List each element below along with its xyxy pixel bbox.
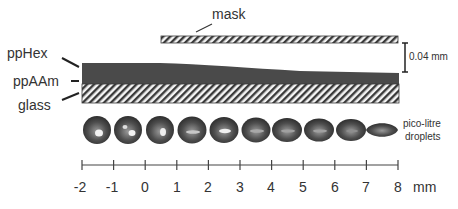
axis-tick-label: 7 — [354, 179, 378, 195]
axis-tick-label: 1 — [165, 179, 189, 195]
droplet — [366, 123, 398, 137]
axis-tick-label: -2 — [68, 179, 92, 195]
droplet — [178, 117, 207, 144]
glass-leader-line — [62, 93, 79, 100]
axis-tick-label: -1 — [100, 179, 124, 195]
axis-tick-label: 5 — [291, 179, 315, 195]
droplet — [242, 118, 271, 143]
pphex-label: ppHex — [7, 45, 47, 61]
ppaam-label: ppAAm — [13, 73, 59, 89]
axis-tick-label: 3 — [228, 179, 252, 195]
axis-tick-label: 2 — [196, 179, 220, 195]
droplets-row — [83, 116, 398, 144]
droplet — [304, 119, 334, 142]
scale-bar — [402, 43, 408, 72]
droplet — [114, 116, 142, 144]
glass-label: glass — [18, 97, 51, 113]
axis-unit-label: mm — [413, 179, 436, 195]
droplet — [336, 119, 366, 141]
droplet — [272, 118, 302, 142]
mask-label: mask — [212, 6, 245, 22]
droplets-label-line2: droplets — [405, 131, 441, 143]
axis-tick-label: 6 — [323, 179, 347, 195]
axis-tick-label: 8 — [386, 179, 410, 195]
axis-tick-label: 0 — [133, 179, 157, 195]
droplet — [83, 116, 111, 144]
mask-bar — [161, 36, 398, 43]
droplet — [210, 117, 239, 143]
pphex-leader-line — [62, 58, 79, 67]
distance-axis — [82, 160, 398, 170]
schematic-figure — [0, 0, 458, 209]
axis-tick-label: 4 — [259, 179, 283, 195]
coating-layer — [82, 63, 399, 84]
mask-leader-line — [196, 24, 212, 32]
droplet — [146, 116, 174, 144]
droplets-label-line1: pico-litre — [403, 118, 441, 130]
glass-substrate — [82, 84, 399, 103]
scale-bar-label: 0.04 mm — [409, 51, 448, 63]
